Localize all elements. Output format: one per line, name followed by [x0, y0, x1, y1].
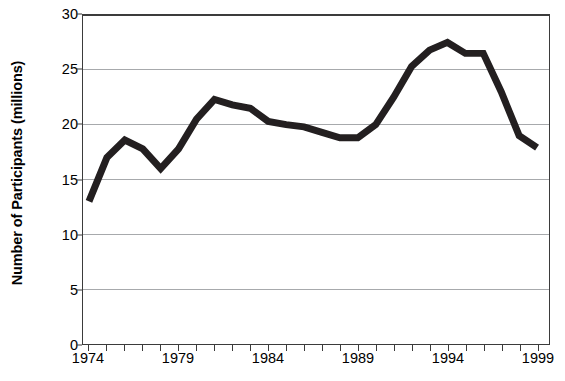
- x-tick-label: 1984: [238, 350, 298, 366]
- line-chart: Number of Participants (millions) 051015…: [0, 0, 565, 381]
- y-axis-title-label: Number of Participants (millions): [9, 60, 25, 285]
- y-axis-tick-labels: 051015202530: [34, 0, 78, 381]
- x-tick-label: 1979: [148, 350, 208, 366]
- plot-area: [82, 14, 550, 345]
- x-axis-tick-labels: 197419791984198919941999: [0, 350, 565, 376]
- data-series-line: [83, 15, 549, 344]
- y-tick-label: 20: [42, 116, 78, 132]
- y-tick-label: 10: [42, 227, 78, 243]
- x-tick-label: 1999: [508, 350, 565, 366]
- x-tick-label: 1994: [418, 350, 478, 366]
- x-tick-label: 1974: [58, 350, 118, 366]
- x-tick-label: 1989: [328, 350, 388, 366]
- series-polyline: [89, 42, 537, 201]
- y-tick-label: 25: [42, 61, 78, 77]
- y-tick-label: 30: [42, 6, 78, 22]
- y-tick-label: 5: [42, 282, 78, 298]
- y-tick-label: 15: [42, 172, 78, 188]
- y-axis-title: Number of Participants (millions): [0, 0, 34, 345]
